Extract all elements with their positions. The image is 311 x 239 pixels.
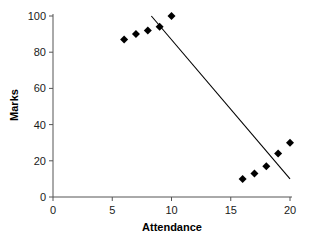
data-point-marker (262, 162, 270, 170)
data-point-marker (239, 175, 247, 183)
y-tick-label: 100 (28, 10, 46, 22)
x-tick-label: 20 (284, 204, 296, 216)
y-tick-label: 40 (34, 119, 46, 131)
y-axis-title: Marks (8, 89, 20, 121)
x-tick-label: 15 (225, 204, 237, 216)
data-point-marker (250, 169, 258, 177)
y-axis-tick-labels: 020406080100 (28, 10, 46, 203)
data-point-marker (120, 36, 128, 44)
trend-line-segment (151, 16, 290, 179)
data-point-marker (274, 150, 282, 158)
x-tick-label: 0 (50, 204, 56, 216)
x-axis-tick-labels: 05101520 (50, 204, 296, 216)
scatter-chart: 020406080100 05101520 Marks Attendance (0, 0, 311, 239)
data-point-marker (286, 139, 294, 147)
chart-canvas: 020406080100 05101520 Marks Attendance (0, 0, 311, 239)
data-points (120, 12, 294, 183)
x-tick-label: 10 (165, 204, 177, 216)
y-tick-label: 0 (40, 191, 46, 203)
y-tick-label: 20 (34, 155, 46, 167)
data-point-marker (144, 26, 152, 34)
x-axis-title: Attendance (142, 221, 202, 233)
trend-line (151, 16, 290, 179)
y-tick-label: 80 (34, 46, 46, 58)
x-tick-label: 5 (109, 204, 115, 216)
data-point-marker (132, 30, 140, 38)
data-point-marker (168, 12, 176, 20)
y-tick-label: 60 (34, 82, 46, 94)
